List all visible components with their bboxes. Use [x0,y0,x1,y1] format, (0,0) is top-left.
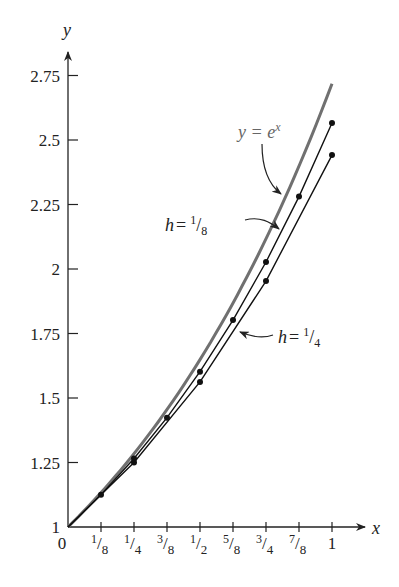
data-point [131,460,137,466]
x-tick-label: 7/8 [289,532,306,557]
data-point [329,120,335,126]
x-axis-label: x [371,518,380,538]
x-tick-label: 0 [58,534,67,553]
x-tick-label: 1/2 [190,532,207,557]
y-tick-label: 1.25 [30,454,60,473]
arrow-h-quarter-icon [240,332,273,337]
x-tick-label: 3/8 [157,532,174,557]
x-tick-label: 3/4 [256,532,274,557]
x-tick-label: 1/4 [124,532,142,557]
y-tick-label: 1.75 [30,325,60,344]
series-0 [68,84,332,527]
series-1 [68,120,335,527]
y-tick-label: 2.25 [30,196,60,215]
data-point [296,194,302,200]
y-tick-label: 2.75 [30,67,60,86]
x-tick-label: 1 [328,534,337,553]
y-tick-label: 2.5 [39,131,60,150]
annotation-exact: y = ex [236,120,281,194]
y-tick-label: 2 [52,260,61,279]
annotation-h-quarter: h=1/4 [240,325,320,350]
data-point [263,278,269,284]
data-point [197,379,203,385]
data-point [263,259,269,265]
series-line [68,84,332,527]
series-layer [68,84,335,527]
y-tick-label: 1.5 [39,389,60,408]
y-axis-label: y [61,20,71,40]
euler-method-chart: y x 11.251.51.7522.252.52.75 01/81/43/81… [0,0,399,587]
y-ticks: 11.251.51.7522.252.52.75 [30,67,78,538]
data-point [329,152,335,158]
data-point [230,317,236,323]
arrow-exact-icon [262,144,281,194]
axes: y x [61,20,380,538]
annotation-exact-text: y = ex [236,120,281,142]
x-tick-label: 5/8 [223,532,240,557]
data-point [197,369,203,375]
annotation-h-eighth-text: h=1/8 [165,213,207,238]
x-tick-label: 1/8 [91,532,108,557]
annotation-h-quarter-text: h=1/4 [278,325,320,350]
annotation-h-eighth: h=1/8 [165,213,279,238]
